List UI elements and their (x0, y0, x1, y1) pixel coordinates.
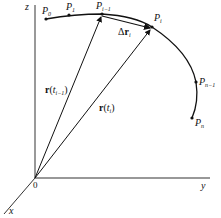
point-p-n-minus-1 (194, 80, 197, 83)
label-p-i-minus-1: Pi−1 (96, 1, 111, 12)
label-p-i: Pi (154, 13, 162, 24)
point-p-i-minus-1 (100, 12, 103, 15)
point-p1 (67, 13, 70, 16)
r-t-i-minus-1-label: r(ti−1) (45, 85, 68, 96)
r-prev-vector (35, 17, 101, 178)
y-axis-label: y (201, 181, 205, 191)
origin-label: 0 (33, 181, 38, 190)
point-p-i (150, 25, 153, 28)
space-curve-diagram: z y x 0 P0 P1 Pi−1 Pi Pn−1 Pn Δri r(ti−1… (0, 0, 221, 218)
point-p-n (190, 116, 193, 119)
z-axis-label: z (25, 2, 29, 12)
label-p0: P0 (42, 6, 51, 17)
r-i-vector (35, 30, 150, 178)
x-axis-label: x (9, 206, 13, 216)
label-p-n: Pn (195, 118, 204, 129)
r-t-i-label: r(ti) (99, 103, 115, 114)
delta-r-label: Δri (118, 27, 131, 38)
point-p0 (44, 17, 47, 20)
label-p-n-minus-1: Pn−1 (199, 77, 215, 88)
label-p1: P1 (66, 2, 75, 13)
